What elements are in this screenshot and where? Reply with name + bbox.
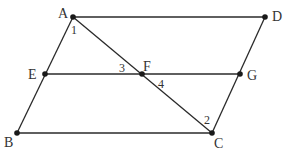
point-G <box>237 71 243 77</box>
point-C <box>209 130 215 136</box>
angle-label-4: 4 <box>158 77 164 91</box>
parallelogram-diagram: A D E F G B C 1 2 3 4 <box>0 0 287 151</box>
label-G: G <box>247 68 257 83</box>
label-A: A <box>58 6 69 21</box>
point-D <box>262 14 268 20</box>
label-C: C <box>214 136 223 151</box>
label-E: E <box>28 67 37 82</box>
angle-label-3: 3 <box>119 61 125 75</box>
point-A <box>70 14 76 20</box>
label-B: B <box>4 135 13 150</box>
angle-label-1: 1 <box>71 23 77 37</box>
angle-label-2: 2 <box>204 113 210 127</box>
label-D: D <box>272 9 282 24</box>
point-E <box>42 71 48 77</box>
point-B <box>14 130 20 136</box>
label-F: F <box>143 59 151 74</box>
